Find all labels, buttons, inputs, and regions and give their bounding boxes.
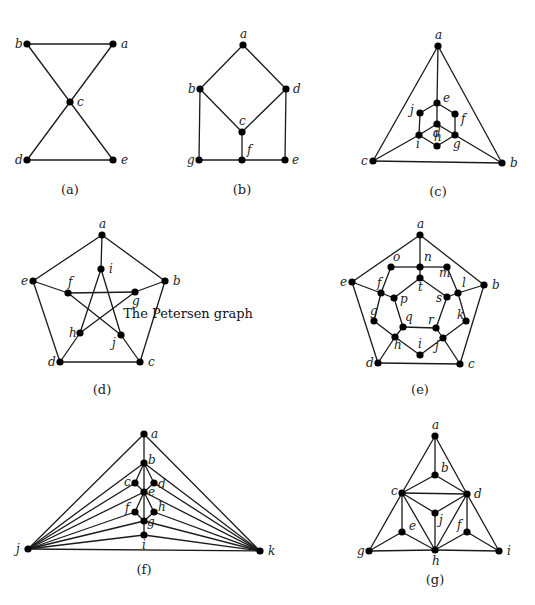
- vertex-label: b: [510, 156, 518, 170]
- vertex-e: [140, 488, 147, 495]
- edge-k-g: [144, 521, 260, 551]
- edge-b-c: [200, 89, 242, 132]
- edge-c-j: [443, 338, 460, 364]
- vertex-c: [369, 157, 376, 164]
- vertex-label: e: [121, 153, 128, 167]
- vertex-f: [238, 156, 245, 163]
- vertex-d: [282, 85, 289, 92]
- vertex-l: [454, 289, 461, 296]
- vertex-label: j: [13, 542, 20, 556]
- edge-b-c: [460, 285, 484, 364]
- vertex-label: b: [148, 453, 156, 467]
- vertex-label: o: [393, 250, 400, 264]
- vertex-label: f: [246, 143, 254, 157]
- edge-a-j: [28, 434, 144, 549]
- edge-h-i: [435, 550, 499, 551]
- vertex-b: [161, 277, 168, 284]
- vertex-b: [196, 85, 203, 92]
- vertex-f: [64, 289, 71, 296]
- edge-b-c: [140, 281, 165, 362]
- vertex-b: [140, 459, 147, 466]
- edge-a-b: [200, 45, 243, 89]
- edge-c-g: [369, 493, 402, 551]
- vertex-e: [29, 277, 36, 284]
- vertex-a: [140, 430, 147, 437]
- petersen-graph-annotation: The Petersen graph: [123, 306, 253, 321]
- edge-i-j: [420, 338, 443, 355]
- vertex-c: [66, 98, 73, 105]
- edge-i-j: [101, 269, 121, 335]
- edge-c-d: [402, 493, 467, 494]
- vertex-label: g: [357, 544, 365, 558]
- vertex-e: [433, 99, 440, 106]
- vertex-label: b: [15, 37, 23, 51]
- graph-e: abcdeonmtfpslgkqrhji(e): [340, 217, 500, 397]
- edge-a-i: [101, 235, 102, 269]
- edge-k-d: [154, 483, 260, 551]
- vertex-d: [463, 490, 470, 497]
- edge-i-h: [80, 269, 101, 333]
- vertex-i: [495, 547, 502, 554]
- vertex-b: [23, 40, 30, 47]
- edge-d-h: [378, 337, 395, 363]
- vertex-f: [131, 508, 138, 515]
- vertex-c: [456, 360, 463, 367]
- vertex-a: [98, 231, 105, 238]
- graph-a: bacde(a): [15, 37, 128, 197]
- vertex-label: q: [405, 310, 413, 324]
- vertex-a: [431, 432, 438, 439]
- vertex-label: f: [67, 275, 75, 289]
- vertex-label: l: [462, 276, 466, 290]
- graph-caption: (g): [426, 572, 444, 587]
- vertex-label: a: [432, 418, 439, 432]
- vertex-label: i: [109, 262, 113, 276]
- graph-caption: (e): [411, 382, 429, 397]
- edge-e-f: [33, 281, 68, 293]
- vertex-label: f: [460, 112, 468, 126]
- vertex-k: [256, 547, 263, 554]
- vertex-d: [23, 156, 30, 163]
- vertex-label: c: [148, 355, 155, 369]
- vertex-e: [348, 278, 355, 285]
- vertex-a: [109, 40, 116, 47]
- vertex-f: [451, 110, 458, 117]
- vertex-label: h: [69, 326, 77, 340]
- edge-e-a: [352, 235, 420, 282]
- edge-j-k: [443, 321, 466, 338]
- graph-caption: (f): [137, 562, 152, 577]
- vertex-j: [439, 334, 446, 341]
- vertex-d: [374, 359, 381, 366]
- vertex-c: [238, 128, 245, 135]
- vertex-b: [480, 281, 487, 288]
- vertex-b: [498, 159, 505, 166]
- edge-d-i: [467, 494, 499, 551]
- graph-caption: (c): [429, 184, 446, 199]
- vertex-j: [117, 331, 124, 338]
- graph-figure: bacde(a)abdcgfe(b)aejfdighcb(c)aiebfghjd…: [0, 0, 535, 605]
- vertex-label: h: [432, 554, 440, 568]
- vertex-label: d: [158, 477, 166, 491]
- vertex-label: d: [48, 355, 56, 369]
- vertex-label: a: [99, 217, 106, 231]
- graph-caption: (b): [233, 182, 251, 197]
- vertex-label: b: [173, 274, 181, 288]
- vertex-i: [416, 351, 423, 358]
- vertex-label: t: [418, 280, 423, 294]
- edge-d-c: [242, 89, 286, 132]
- edge-b-g: [135, 281, 165, 292]
- graph-caption: (d): [93, 382, 111, 397]
- vertex-label: h: [158, 500, 166, 514]
- edge-a-d: [243, 45, 286, 89]
- vertex-j: [416, 109, 423, 116]
- edge-a-c: [373, 46, 438, 161]
- edge-j-i: [28, 535, 144, 549]
- vertex-label: i: [418, 337, 422, 351]
- vertex-label: e: [340, 275, 347, 289]
- graphs-layer: bacde(a)abdcgfe(b)aejfdighcb(c)aiebfghjd…: [13, 27, 518, 587]
- vertex-label: c: [468, 357, 475, 371]
- vertex-h: [431, 546, 438, 553]
- edge-j-c: [28, 483, 135, 549]
- edge-d-e: [285, 89, 286, 160]
- edge-c-j: [121, 335, 140, 362]
- vertex-label: i: [142, 538, 146, 552]
